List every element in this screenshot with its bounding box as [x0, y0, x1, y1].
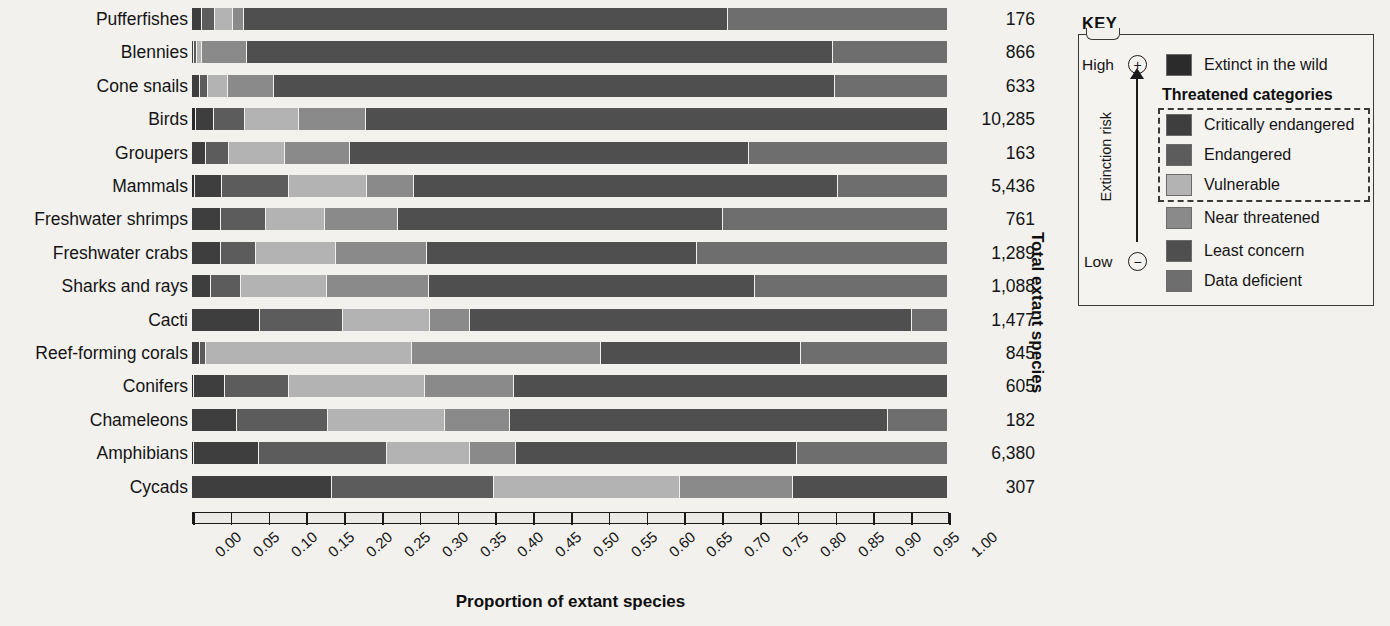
bar-segment-vulnerable — [387, 442, 470, 464]
x-axis-title: Proportion of extant species — [192, 592, 949, 612]
x-tick — [306, 513, 308, 525]
category-label: Amphibians — [97, 442, 188, 464]
bar-segment-least-concern — [350, 142, 749, 164]
bar-segment-near-threatened — [202, 41, 247, 63]
bar-segment-near-threatened — [425, 375, 514, 397]
x-tick-label: 0.35 — [476, 528, 509, 560]
bar-segment-vulnerable — [215, 8, 232, 30]
total-extant-species-value: 761 — [965, 208, 1035, 230]
bar-segment-critically-endangered — [192, 409, 237, 431]
category-label: Cacti — [148, 309, 188, 331]
x-tick — [533, 513, 535, 525]
bar-row — [192, 342, 948, 364]
category-label: Reef-forming corals — [35, 342, 188, 364]
x-tick-label: 0.80 — [816, 528, 849, 560]
x-tick-label: 0.70 — [741, 528, 774, 560]
legend-label: Critically endangered — [1204, 114, 1354, 136]
x-tick — [495, 513, 497, 525]
legend-swatch-icon — [1166, 114, 1192, 136]
x-tick — [836, 513, 838, 525]
bar-segment-vulnerable — [206, 342, 412, 364]
bar-segment-near-threatened — [327, 275, 429, 297]
risk-low-icon: − — [1128, 252, 1147, 271]
minus-icon: − — [1129, 253, 1146, 270]
x-tick-label: 0.55 — [627, 528, 660, 560]
bar-segment-data-deficient — [797, 442, 948, 464]
bar-segment-near-threatened — [430, 309, 470, 331]
bar-segment-vulnerable — [343, 309, 430, 331]
legend-label: Extinct in the wild — [1204, 54, 1328, 76]
bar-row — [192, 142, 948, 164]
x-tick-label: 0.30 — [438, 528, 471, 560]
bar-segment-least-concern — [601, 342, 801, 364]
bar-segment-vulnerable — [245, 108, 299, 130]
bar-segment-critically-endangered — [192, 476, 332, 498]
category-label: Pufferfishes — [96, 8, 188, 30]
legend-label: Near threatened — [1204, 207, 1320, 229]
bar-segment-vulnerable — [494, 476, 679, 498]
total-extant-species-value: 163 — [965, 142, 1035, 164]
bar-row — [192, 75, 948, 97]
legend-label: Data deficient — [1204, 270, 1302, 292]
bar-segment-least-concern — [366, 108, 948, 130]
bar-segment-data-deficient — [723, 208, 948, 230]
bar-segment-near-threatened — [470, 442, 515, 464]
bar-segment-least-concern — [470, 309, 912, 331]
plot-area — [192, 8, 948, 510]
bar-segment-critically-endangered — [192, 242, 221, 264]
bar-row — [192, 409, 948, 431]
total-extant-species-value: 1,289 — [965, 242, 1035, 264]
category-label: Cone snails — [97, 75, 188, 97]
bar-segment-data-deficient — [728, 8, 948, 30]
bar-segment-near-threatened — [412, 342, 601, 364]
legend-swatch-icon — [1166, 240, 1192, 262]
x-tick-label: 0.10 — [287, 528, 320, 560]
bar-row — [192, 108, 948, 130]
x-tick-label: 0.45 — [552, 528, 585, 560]
total-extant-species-value: 6,380 — [965, 442, 1035, 464]
x-tick-label: 0.40 — [514, 528, 547, 560]
x-tick-label: 0.50 — [590, 528, 623, 560]
x-tick — [798, 513, 800, 525]
key-notch — [1086, 28, 1120, 40]
bar-segment-vulnerable — [289, 175, 368, 197]
bar-segment-data-deficient — [912, 309, 948, 331]
bar-segment-near-threatened — [299, 108, 366, 130]
bar-segment-endangered — [259, 442, 388, 464]
bar-segment-data-deficient — [697, 242, 948, 264]
x-tick — [609, 513, 611, 525]
x-tick — [873, 513, 875, 525]
bar-segment-least-concern — [429, 275, 756, 297]
bar-segment-critically-endangered — [192, 142, 206, 164]
bar-row — [192, 442, 948, 464]
x-tick — [684, 513, 686, 525]
bar-segment-endangered — [237, 409, 328, 431]
category-label: Groupers — [115, 142, 188, 164]
x-tick — [344, 513, 346, 525]
bar-segment-near-threatened — [233, 8, 244, 30]
x-tick-label: 0.90 — [892, 528, 925, 560]
bar-segment-least-concern — [514, 375, 948, 397]
bar-segment-near-threatened — [336, 242, 427, 264]
bar-row — [192, 242, 948, 264]
x-tick-label: 0.95 — [930, 528, 963, 560]
bar-segment-vulnerable — [266, 208, 325, 230]
bar-segment-critically-endangered — [196, 108, 214, 130]
bar-segment-vulnerable — [208, 75, 228, 97]
bar-segment-endangered — [200, 75, 208, 97]
x-tick-label: 0.85 — [854, 528, 887, 560]
y-axis-title: Total extant species — [1028, 232, 1046, 393]
bar-segment-critically-endangered — [192, 208, 221, 230]
x-tick-label: 0.25 — [401, 528, 434, 560]
bar-segment-critically-endangered — [192, 342, 200, 364]
bar-segment-vulnerable — [241, 275, 326, 297]
bar-segment-vulnerable — [256, 242, 336, 264]
bar-row — [192, 175, 948, 197]
legend-swatch-icon — [1166, 54, 1192, 76]
bar-row — [192, 375, 948, 397]
legend-swatch-icon — [1166, 207, 1192, 229]
x-tick-label: 0.75 — [779, 528, 812, 560]
total-extant-species-value: 605 — [965, 375, 1035, 397]
bar-segment-near-threatened — [445, 409, 509, 431]
bar-row — [192, 208, 948, 230]
